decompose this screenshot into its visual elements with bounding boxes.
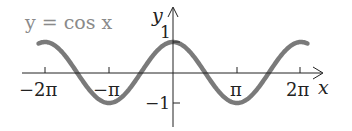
tick-label-2pi: 2π bbox=[286, 79, 309, 100]
tick-label-neg1: −1 bbox=[145, 93, 170, 113]
tick-label-neg2pi: −2π bbox=[19, 79, 58, 100]
cosine-chart: −2π −π π 2π x y 1 −1 y = cos x bbox=[0, 0, 352, 131]
tick-label-pi: π bbox=[230, 79, 242, 100]
equation-label: y = cos x bbox=[24, 11, 113, 33]
tick-label-1: 1 bbox=[160, 22, 171, 42]
x-axis-label: x bbox=[318, 76, 329, 98]
tick-label-negpi: −π bbox=[93, 79, 120, 100]
